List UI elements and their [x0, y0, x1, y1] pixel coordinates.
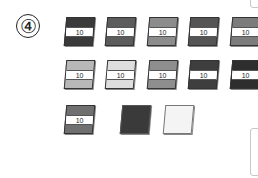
number-card-10: 10	[105, 17, 137, 46]
card-value-label: 10	[232, 27, 258, 37]
side-frame-bottom	[250, 128, 258, 176]
card-value-label: 10	[190, 27, 217, 37]
number-card-10: 10	[64, 105, 96, 134]
side-frame-top	[250, 0, 258, 8]
number-card-10: 10	[105, 60, 137, 89]
card-value-label: 10	[107, 70, 134, 80]
blank-card	[120, 105, 152, 134]
card-value-label: 10	[107, 27, 134, 37]
blank-card	[163, 105, 195, 134]
card-value-label: 10	[232, 70, 258, 80]
card-value-label: 10	[66, 115, 93, 125]
card-value-label: 10	[66, 27, 93, 37]
number-card-10: 10	[230, 17, 258, 46]
number-card-10: 10	[230, 60, 258, 89]
number-card-10: 10	[64, 17, 96, 46]
card-value-label: 10	[149, 27, 176, 37]
number-card-10: 10	[64, 60, 96, 89]
card-value-label: 10	[190, 70, 217, 80]
problem-number: ④	[16, 14, 40, 38]
number-card-10: 10	[188, 17, 220, 46]
number-card-10: 10	[188, 60, 220, 89]
card-value-label: 10	[149, 70, 176, 80]
number-card-10: 10	[147, 17, 179, 46]
number-card-10: 10	[147, 60, 179, 89]
card-value-label: 10	[66, 70, 93, 80]
